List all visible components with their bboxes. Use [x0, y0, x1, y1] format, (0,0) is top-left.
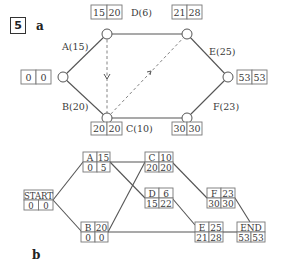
latest-start: 0: [99, 233, 105, 243]
earliest-start: 21: [196, 233, 207, 243]
edge-f-end: [235, 198, 250, 222]
activity-on-arrow-network: 0 0 15 20 21 28 20 20 30 30 53 53: [21, 5, 267, 135]
event-node-top-left: [102, 29, 112, 39]
activity-label-b: B(20): [62, 101, 88, 112]
node-name: A: [86, 153, 94, 163]
late-time: 20: [108, 123, 120, 134]
edge-c-f: [172, 162, 207, 198]
latest-start: 22: [160, 199, 171, 209]
node-name: END: [240, 223, 262, 233]
activity-label-d: D(6): [131, 7, 152, 18]
activity-label-f: F(23): [213, 101, 239, 112]
event-node-end: [223, 72, 233, 82]
late-time: 30: [188, 123, 200, 134]
earliest-start: 20: [146, 163, 158, 173]
network-diagrams: 0 0 15 20 21 28 20 20 30 30 53 53: [0, 0, 290, 263]
early-time: 21: [173, 7, 185, 18]
duration: 15: [98, 153, 110, 163]
edge-a-d: [110, 162, 145, 198]
edge-d-e: [172, 198, 195, 225]
event-node-bottom-left: [102, 113, 112, 123]
event-box-top-left: 15 20: [91, 5, 122, 19]
duration: 6: [163, 189, 169, 199]
activity-node-e: E 25 21 28: [195, 222, 223, 243]
duration: 23: [222, 189, 234, 199]
activity-node-d: D 6 15 22: [145, 188, 173, 209]
early-time: 53: [238, 72, 250, 83]
edge-start-a: [53, 162, 83, 200]
latest-start: 20: [160, 163, 172, 173]
event-box-top-right: 21 28: [172, 5, 202, 19]
early-time: 15: [93, 7, 105, 18]
late-time: 53: [253, 72, 265, 83]
latest-start: 5: [101, 163, 107, 173]
event-node-start: [58, 72, 68, 82]
activity-node-c: C 10 20 20: [145, 152, 173, 173]
duration: 20: [96, 223, 108, 233]
late-time: 0: [40, 72, 46, 83]
event-box-bottom-right: 30 30: [172, 122, 202, 135]
activity-node-start: START 0 0: [24, 190, 53, 211]
activity-label-a: A(15): [61, 41, 88, 52]
node-name: B: [85, 223, 92, 233]
event-node-bottom-right: [182, 113, 192, 123]
edge-b-c: [108, 162, 145, 232]
duration: 10: [160, 153, 172, 163]
latest-start: 0: [43, 201, 48, 211]
earliest-start: 53: [238, 233, 250, 243]
earliest-start: 15: [146, 199, 158, 209]
event-box-bottom-left: 20 20: [91, 122, 122, 135]
node-name: E: [199, 223, 206, 233]
earliest-start: 30: [208, 199, 220, 209]
activity-node-b: B 20 0 0: [81, 222, 108, 243]
event-box-end: 53 53: [237, 70, 267, 84]
activity-node-f: F 23 30 30: [207, 188, 235, 209]
node-name: F: [211, 189, 217, 199]
node-name: D: [148, 189, 155, 199]
activity-on-node-network: START 0 0 A 15 0 5 B 20 0 0 C 10: [24, 152, 265, 243]
late-time: 20: [108, 7, 120, 18]
duration: 25: [210, 223, 222, 233]
latest-start: 30: [222, 199, 234, 209]
dummy-edge-2: [107, 34, 187, 118]
event-node-top-right: [182, 29, 192, 39]
activity-node-a: A 15 0 5: [83, 152, 110, 173]
latest-start: 28: [210, 233, 222, 243]
activity-node-end: END 53 53: [237, 222, 265, 243]
late-time: 28: [188, 7, 200, 18]
event-box-start: 0 0: [21, 70, 51, 84]
early-time: 20: [93, 123, 105, 134]
activity-label-e: E(25): [209, 46, 235, 57]
earliest-start: 0: [87, 163, 93, 173]
edge-start-b: [53, 200, 82, 232]
node-name: START: [24, 191, 53, 201]
latest-start: 53: [252, 233, 264, 243]
node-name: C: [149, 153, 156, 163]
early-time: 30: [173, 123, 185, 134]
earliest-start: 0: [28, 201, 33, 211]
early-time: 0: [25, 72, 31, 83]
activity-label-c: C(10): [126, 123, 153, 134]
earliest-start: 0: [85, 233, 91, 243]
